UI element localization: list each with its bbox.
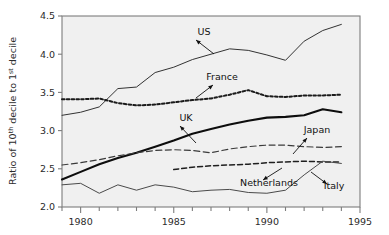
series-label-japan: Japan: [303, 124, 331, 135]
x-tick-label: 1980: [69, 216, 93, 227]
y-tick-label: 4.5: [40, 10, 55, 21]
x-tick-label: 1985: [162, 216, 186, 227]
y-tick-label: 4.0: [40, 49, 55, 60]
series-label-italy: Italy: [324, 180, 345, 191]
series-label-uk: UK: [179, 112, 193, 123]
y-axis-label: Ratio of 10th decile to 1st decile: [7, 37, 18, 185]
series-label-us: US: [198, 26, 211, 37]
y-tick-label: 3.0: [40, 125, 55, 136]
series-label-france: France: [206, 71, 238, 82]
x-tick-label: 1995: [348, 216, 372, 227]
chart-figure: 2.02.53.03.54.04.5 1980198519901995 USFr…: [0, 0, 389, 235]
y-tick-label: 2.5: [40, 163, 55, 174]
series-label-netherlands: Netherlands: [240, 177, 298, 188]
y-tick-label: 2.0: [40, 201, 55, 212]
decile-ratio-line-chart: 2.02.53.03.54.04.5 1980198519901995 USFr…: [0, 0, 389, 235]
x-tick-label: 1990: [255, 216, 279, 227]
y-tick-label: 3.5: [40, 87, 55, 98]
